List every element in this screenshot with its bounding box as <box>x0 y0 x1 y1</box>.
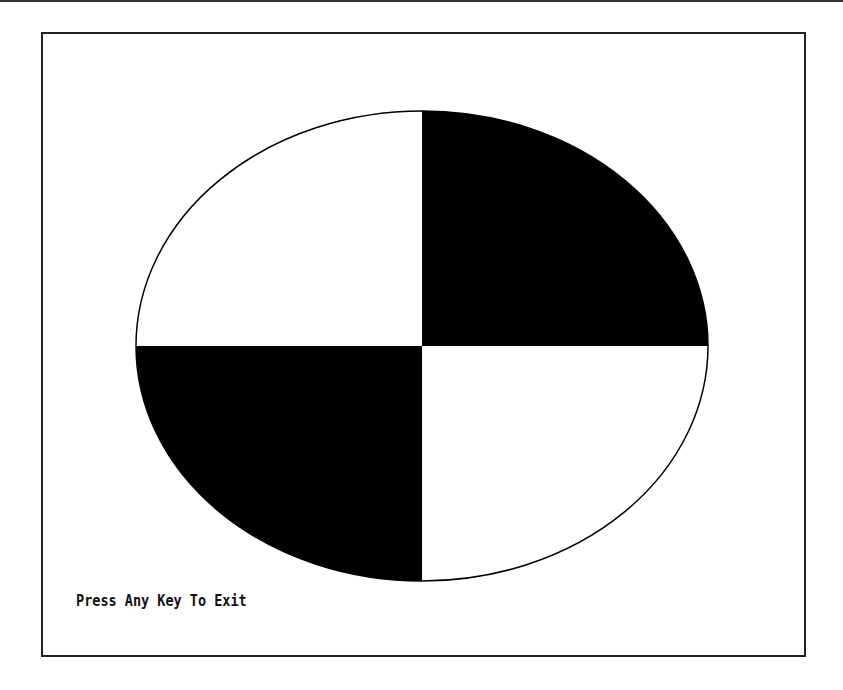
graphics-canvas <box>0 0 843 690</box>
quadrant-bottom-left <box>130 346 422 591</box>
exit-prompt: Press Any Key To Exit <box>76 592 247 610</box>
quadrant-top-right <box>422 100 722 346</box>
